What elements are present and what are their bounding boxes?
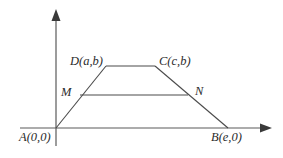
vertex-label-c: C(c,b): [159, 55, 191, 68]
y-axis-arrow-icon: [52, 9, 61, 21]
x-axis-arrow-icon: [260, 124, 272, 133]
edge-CB: [155, 66, 228, 128]
vertex-label-d: D(a,b): [70, 55, 103, 68]
point-label-n: N: [195, 85, 203, 98]
point-label-m: M: [61, 86, 71, 99]
vertex-label-b: B(e,0): [211, 131, 242, 144]
vertex-label-a: A(0,0): [19, 131, 51, 144]
geometry-figure: A(0,0) B(e,0) C(c,b) D(a,b) M N: [0, 0, 283, 158]
